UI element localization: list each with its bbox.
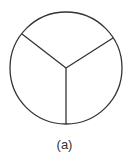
radius-line-top-right [66,38,113,68]
figure-caption: (a) [0,137,129,152]
radius-line-top-left [22,34,66,68]
